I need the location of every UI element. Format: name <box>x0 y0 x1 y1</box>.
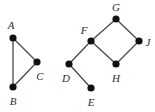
vertex-label-H: H <box>112 73 120 84</box>
vertex-G <box>112 15 119 22</box>
right-graph <box>65 15 142 91</box>
vertex-A <box>9 34 16 41</box>
vertex-label-B: B <box>10 96 17 107</box>
vertex-C <box>33 58 40 65</box>
left-graph-vertices <box>9 34 40 90</box>
left-graph-edges <box>13 38 37 87</box>
edge-D-E <box>69 64 91 88</box>
vertex-H <box>112 60 119 67</box>
graph-figure: ABCDEFGHJ <box>0 0 155 112</box>
edge-D-F <box>69 41 91 64</box>
edge-G-J <box>116 19 139 41</box>
edge-H-J <box>116 41 139 64</box>
vertex-F <box>87 37 94 44</box>
vertex-label-J: J <box>146 37 151 48</box>
vertex-label-D: D <box>62 73 70 84</box>
edge-F-H <box>91 41 116 64</box>
vertex-label-C: C <box>36 71 43 82</box>
edge-A-C <box>13 38 37 62</box>
right-graph-edges <box>69 19 139 88</box>
edge-F-G <box>91 19 116 41</box>
left-graph <box>9 34 40 90</box>
edge-B-C <box>13 62 37 87</box>
graph-canvas <box>0 0 155 112</box>
vertex-D <box>65 60 72 67</box>
vertex-label-A: A <box>8 20 15 31</box>
vertex-E <box>87 84 94 91</box>
vertex-label-F: F <box>81 25 88 36</box>
vertex-B <box>9 83 16 90</box>
vertex-label-G: G <box>112 2 120 13</box>
vertex-label-E: E <box>88 97 95 108</box>
vertex-J <box>135 37 142 44</box>
